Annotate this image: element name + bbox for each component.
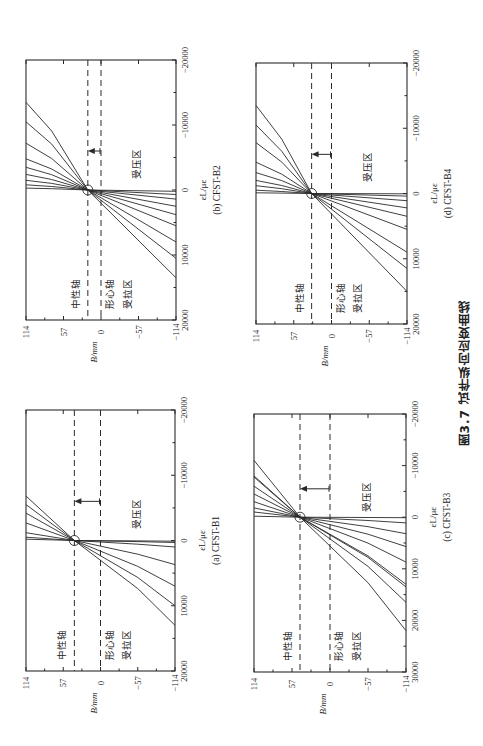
strain-tick-label: −20000: [411, 50, 421, 76]
arrow-head-icon: [88, 148, 95, 154]
neutral-axis-label: 中性轴: [294, 283, 305, 313]
b-tick-label: 114: [249, 677, 259, 690]
compression-zone-label: 受压区: [131, 149, 142, 179]
x-axis-label: εL/με: [428, 507, 438, 528]
strain-tick-label: 0: [411, 191, 421, 195]
tension-zone-label: 受拉区: [351, 631, 362, 661]
centroid-axis-label: 形心轴: [333, 631, 344, 661]
figure-caption: 图3.7 试件纵向应变曲线: [456, 300, 476, 446]
b-tick-label: 114: [251, 329, 261, 342]
b-tick-label: 57: [289, 332, 299, 341]
b-tick-label: −57: [134, 325, 144, 338]
b-tick-label: 0: [96, 681, 106, 685]
tension-zone-label: 受拉区: [121, 630, 132, 660]
b-tick-label: −57: [364, 329, 374, 342]
chart-panel-a: 114570−57−11420000100000−10000−20000B/mm…: [21, 397, 222, 714]
strain-tick-label: −20000: [179, 397, 189, 423]
strain-tick-label: 20000: [411, 313, 421, 334]
b-tick-label: 114: [21, 325, 31, 338]
chart-panel-c: 114570−57−1143000020000100000−10000−2000…: [249, 401, 453, 715]
strain-profile-line: [256, 193, 407, 194]
b-tick-label: 0: [327, 334, 337, 338]
chart-panel-d: 114570−57−11420000100000−10000−20000B/mm…: [251, 50, 454, 367]
panel-title: (b) CFST-B2: [212, 165, 223, 215]
b-tick-label: 57: [59, 328, 69, 337]
tension-zone-label: 受拉区: [122, 279, 133, 309]
b-tick-label: 114: [21, 676, 31, 689]
strain-figure: 114570−57−11420000100000−10000−20000B/mm…: [0, 0, 483, 746]
strain-tick-label: 10000: [179, 595, 189, 616]
arrow-head-icon: [300, 486, 307, 492]
b-tick-label: 57: [287, 680, 297, 689]
centroid-axis-label: 形心轴: [104, 279, 115, 309]
strain-tick-label: −10000: [410, 453, 420, 479]
b-tick-label: −57: [363, 677, 373, 690]
y-axis-label: B/mm: [89, 341, 99, 362]
strain-tick-label: 10000: [410, 558, 420, 579]
compression-zone-label: 受压区: [362, 152, 373, 182]
strain-tick-label: −20000: [410, 401, 420, 427]
y-axis-label: B/mm: [318, 693, 328, 714]
panel-title: (c) CFST-B3: [442, 492, 453, 541]
x-axis-label: εL/με: [197, 530, 207, 551]
strain-tick-label: 30000: [410, 661, 420, 682]
centroid-axis-label: 形心轴: [104, 630, 115, 660]
strain-tick-label: 20000: [179, 660, 189, 681]
strain-tick-label: 10000: [411, 248, 421, 269]
chart-panel-b: 114570−57−11420000100000−10000−20000B/mm…: [21, 47, 223, 363]
strain-tick-label: 0: [180, 188, 190, 192]
x-axis-label: εL/με: [429, 183, 439, 204]
panel-title: (d) CFST-B4: [443, 168, 454, 218]
strain-tick-label: −20000: [180, 47, 190, 73]
plot-frame: [254, 414, 406, 672]
centroid-axis-label: 形心轴: [335, 283, 346, 313]
panel-title: (a) CFST-B1: [211, 516, 222, 565]
strain-tick-label: 20000: [410, 610, 420, 631]
arrow-head-icon: [74, 498, 81, 504]
strain-tick-label: −10000: [179, 462, 189, 488]
b-tick-label: 0: [96, 330, 106, 334]
strain-tick-label: 10000: [180, 244, 190, 265]
neutral-axis-label: 中性轴: [70, 279, 81, 309]
b-tick-label: 0: [325, 682, 335, 686]
compression-zone-label: 受压区: [131, 499, 142, 529]
strain-tick-label: −10000: [411, 115, 421, 141]
strain-tick-label: −10000: [180, 112, 190, 138]
y-axis-label: B/mm: [89, 692, 99, 713]
x-axis-label: εL/με: [198, 180, 208, 201]
strain-tick-label: 20000: [180, 309, 190, 330]
y-axis-label: B/mm: [320, 345, 330, 366]
strain-tick-label: 0: [179, 538, 189, 542]
b-tick-label: 57: [58, 679, 68, 688]
neutral-axis-label: 中性轴: [282, 631, 293, 661]
strain-tick-label: 0: [410, 515, 420, 519]
neutral-axis-label: 中性轴: [56, 630, 67, 660]
compression-zone-label: 受压区: [361, 482, 372, 512]
b-tick-label: −57: [133, 676, 143, 689]
strain-profile-line: [254, 477, 406, 587]
arrow-head-icon: [312, 151, 319, 157]
tension-zone-label: 受拉区: [352, 283, 363, 313]
